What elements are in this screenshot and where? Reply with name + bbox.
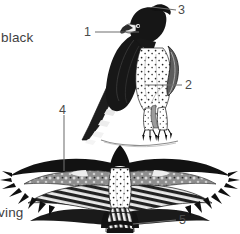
perched-bird-legs: [144, 105, 168, 130]
wing-text-label: ving: [0, 206, 24, 220]
callout-number-3: 3: [178, 4, 185, 17]
callout-number-2: 2: [185, 79, 192, 92]
callout-number-5: 5: [179, 214, 186, 227]
perched-bird-underparts: [136, 48, 171, 114]
perched-bird-head: [120, 4, 171, 42]
callout-number-4: 4: [59, 104, 66, 117]
black-text-label: black: [1, 31, 34, 45]
perched-bird: [82, 4, 179, 146]
flying-bird-tail: [106, 208, 134, 233]
flying-bird: [0, 145, 240, 233]
callout-number-1: 1: [84, 26, 91, 39]
bird-illustration-artwork: [0, 0, 240, 234]
illustration-plate: black ving 1 2 3 4 5: [0, 0, 240, 234]
